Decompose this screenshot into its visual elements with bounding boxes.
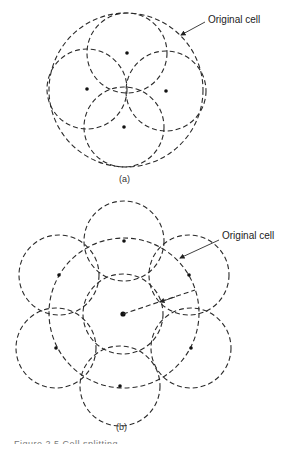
figure-b-label: (b)	[116, 422, 127, 432]
figure-caption: Figure 2.5 Cell splitting	[14, 438, 118, 444]
callout-arrow-b	[180, 240, 219, 258]
cell-site-dot	[122, 125, 126, 129]
cell-site-dot	[189, 346, 193, 350]
cell-site-dot	[54, 346, 58, 350]
callout-label-a: Original cell	[208, 14, 260, 25]
cell-site-dot	[122, 239, 126, 243]
callout-label-b: Original cell	[222, 230, 274, 241]
cell-splitting-diagram	[0, 0, 291, 452]
original-cell-circle	[49, 13, 203, 167]
cell-site-dot	[187, 273, 191, 277]
figure-a-label: (a)	[119, 174, 130, 184]
cell-site-dot	[125, 51, 129, 55]
cell-site-dot	[85, 87, 89, 91]
figure-a	[47, 13, 206, 167]
cell-site-dot	[57, 273, 61, 277]
cell-site-dot	[118, 384, 122, 388]
radius-arrow	[160, 297, 175, 302]
cell-site-dot	[164, 89, 168, 93]
callout-arrow-a	[181, 22, 205, 35]
